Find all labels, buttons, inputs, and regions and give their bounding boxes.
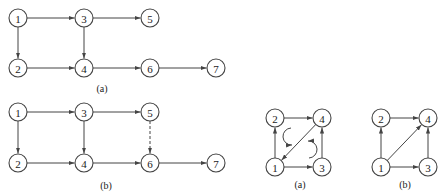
figure-caption: (a) bbox=[96, 83, 107, 95]
node-1: 1 bbox=[266, 158, 284, 176]
edge-1-to-4 bbox=[387, 125, 421, 161]
node-3: 3 bbox=[75, 103, 93, 121]
node-2: 2 bbox=[266, 109, 284, 127]
node-4: 4 bbox=[75, 59, 93, 77]
cycle-arrow-icon bbox=[283, 128, 292, 145]
node-label: 3 bbox=[81, 107, 87, 119]
node-label: 6 bbox=[147, 158, 153, 170]
node-label: 2 bbox=[272, 113, 278, 125]
nodes-layer: 1352467135246724132413 bbox=[9, 9, 437, 176]
edges-layer bbox=[18, 18, 428, 167]
node-label: 2 bbox=[15, 158, 21, 170]
figure-caption: (b) bbox=[100, 180, 112, 192]
figure-caption: (b) bbox=[399, 179, 411, 191]
node-2: 2 bbox=[9, 154, 27, 172]
node-7: 7 bbox=[207, 154, 225, 172]
captions-layer: (a)(b)(a)(b) bbox=[96, 83, 410, 192]
node-label: 1 bbox=[15, 13, 21, 25]
node-1: 1 bbox=[9, 103, 27, 121]
node-3: 3 bbox=[313, 158, 331, 176]
node-label: 7 bbox=[213, 158, 219, 170]
node-6: 6 bbox=[141, 154, 159, 172]
node-2: 2 bbox=[372, 109, 390, 127]
node-3: 3 bbox=[419, 158, 437, 176]
node-6: 6 bbox=[141, 59, 159, 77]
node-label: 3 bbox=[319, 162, 325, 174]
node-label: 1 bbox=[378, 162, 384, 174]
node-label: 4 bbox=[319, 113, 325, 125]
node-label: 3 bbox=[81, 13, 87, 25]
node-4: 4 bbox=[75, 154, 93, 172]
node-7: 7 bbox=[207, 59, 225, 77]
node-label: 5 bbox=[147, 13, 153, 25]
diagram-canvas: 1352467135246724132413 (a)(b)(a)(b) bbox=[0, 0, 447, 196]
node-2: 2 bbox=[9, 59, 27, 77]
cycle-arrow-icon bbox=[308, 141, 317, 158]
node-4: 4 bbox=[419, 109, 437, 127]
node-3: 3 bbox=[75, 9, 93, 27]
node-label: 1 bbox=[15, 107, 21, 119]
node-label: 2 bbox=[15, 63, 21, 75]
node-5: 5 bbox=[141, 103, 159, 121]
node-label: 2 bbox=[378, 113, 384, 125]
node-label: 1 bbox=[272, 162, 278, 174]
node-4: 4 bbox=[313, 109, 331, 127]
node-label: 4 bbox=[425, 113, 431, 125]
node-label: 7 bbox=[213, 63, 219, 75]
node-1: 1 bbox=[9, 9, 27, 27]
node-5: 5 bbox=[141, 9, 159, 27]
figure-caption: (a) bbox=[294, 179, 305, 191]
node-label: 5 bbox=[147, 107, 153, 119]
node-label: 3 bbox=[425, 162, 431, 174]
node-label: 4 bbox=[81, 158, 87, 170]
node-label: 6 bbox=[147, 63, 153, 75]
node-1: 1 bbox=[372, 158, 390, 176]
node-label: 4 bbox=[81, 63, 87, 75]
